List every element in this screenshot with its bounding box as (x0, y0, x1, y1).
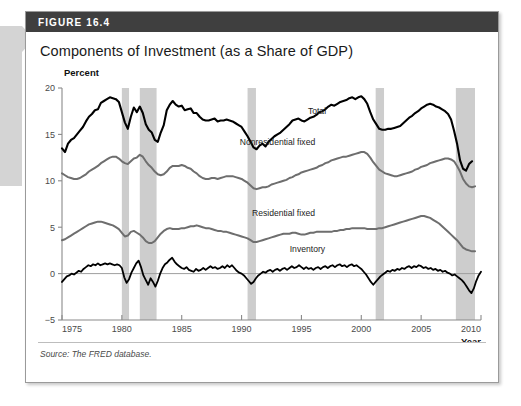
recession-band (376, 88, 384, 320)
y-tick-label: −5 (45, 315, 55, 325)
figure-header-bar: FIGURE 16.4 (26, 12, 498, 32)
x-tick-label: 2000 (351, 324, 371, 334)
series-label-nonresidential-fixed: Nonresidential fixed (240, 137, 316, 147)
series-label-total: Total (308, 106, 326, 116)
figure-title: Components of Investment (as a Share of … (26, 32, 498, 59)
recession-band (248, 88, 256, 320)
x-tick-label: 1980 (112, 324, 132, 334)
x-tick-label: 2010 (461, 324, 481, 334)
figure-number-label: FIGURE 16.4 (38, 17, 110, 28)
chart-plot-area: −505101520197519801985199019952000200520… (26, 80, 498, 342)
x-tick-label: 1985 (172, 324, 192, 334)
y-axis-unit-label: Percent (26, 59, 498, 78)
x-tick-label: 1995 (291, 324, 311, 334)
source-note: Source: The FRED database. (40, 349, 152, 359)
y-tick-label: 15 (45, 130, 55, 140)
y-tick-label: 10 (45, 176, 55, 186)
series-label-residential-fixed: Residential fixed (252, 208, 315, 218)
figure-card: FIGURE 16.4 Components of Investment (as… (25, 11, 499, 383)
x-tick-label: 1990 (232, 324, 252, 334)
source-divider (38, 342, 486, 343)
y-tick-label: 5 (50, 223, 55, 233)
x-tick-label: 2005 (411, 324, 431, 334)
recession-bands-group (122, 88, 475, 320)
x-tick-label: 1975 (62, 324, 82, 334)
investment-components-line-chart: −505101520197519801985199019952000200520… (26, 80, 496, 342)
y-tick-label: 0 (50, 269, 55, 279)
y-tick-label: 20 (45, 83, 55, 93)
page-edge-marker (0, 26, 22, 186)
series-label-inventory: Inventory (290, 244, 326, 254)
